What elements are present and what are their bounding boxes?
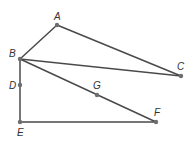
segment-bc <box>20 59 181 76</box>
point-e <box>18 120 22 124</box>
point-label-e: E <box>17 127 24 138</box>
point-a <box>55 23 59 27</box>
geometry-diagram: ABCDEFG <box>0 0 195 143</box>
labels: ABCDEFG <box>9 11 185 138</box>
point-label-a: A <box>53 11 61 22</box>
point-label-b: B <box>9 48 16 59</box>
segment-ab <box>20 25 57 59</box>
point-label-d: D <box>9 80 16 91</box>
point-c <box>179 74 183 78</box>
point-g <box>95 93 99 97</box>
segment-ac <box>57 25 181 76</box>
point-b <box>18 57 22 61</box>
point-d <box>18 83 22 87</box>
point-f <box>154 120 158 124</box>
point-label-f: F <box>154 107 161 118</box>
segment-bf <box>20 59 156 122</box>
point-label-c: C <box>177 61 185 72</box>
point-label-g: G <box>93 80 101 91</box>
